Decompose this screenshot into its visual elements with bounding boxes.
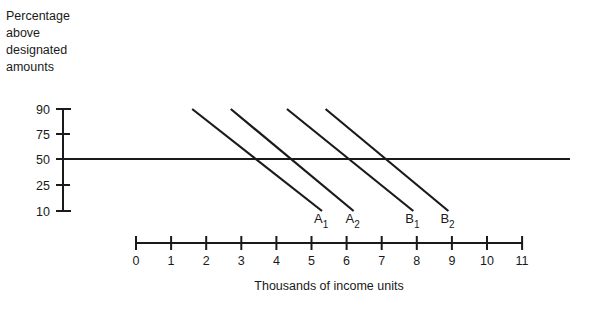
- x-tick-label: 2: [203, 254, 210, 268]
- y-tick-label: 50: [36, 153, 50, 167]
- x-tick-label: 11: [516, 254, 529, 268]
- x-tick-label: 6: [343, 254, 350, 268]
- series-label: A1: [314, 211, 329, 230]
- x-tick-label: 3: [238, 254, 245, 268]
- x-tick-label: 4: [273, 254, 280, 268]
- x-tick-label: 8: [413, 254, 420, 268]
- x-tick-label: 10: [480, 254, 494, 268]
- x-tick-label: 0: [133, 254, 140, 268]
- x-axis-title: Thousands of income units: [254, 279, 403, 293]
- y-tick-label: 75: [36, 128, 50, 142]
- series-label: A2: [346, 211, 361, 230]
- chart-canvas: 9075502510 01234567891011 A1A2B1B2 Thous…: [0, 0, 594, 310]
- x-axis: 01234567891011: [133, 236, 529, 268]
- y-tick-label: 25: [36, 179, 50, 193]
- series-label: B1: [405, 211, 420, 230]
- y-axis: 9075502510: [36, 103, 71, 219]
- y-tick-label: 10: [36, 205, 50, 219]
- series-a2: A2: [231, 109, 361, 230]
- x-tick-label: 1: [168, 254, 175, 268]
- x-tick-label: 7: [378, 254, 385, 268]
- x-tick-label: 5: [308, 254, 315, 268]
- y-tick-label: 90: [36, 103, 50, 117]
- x-tick-label: 9: [448, 254, 455, 268]
- series-lines: A1A2B1B2: [192, 109, 455, 230]
- series-label: B2: [440, 211, 455, 230]
